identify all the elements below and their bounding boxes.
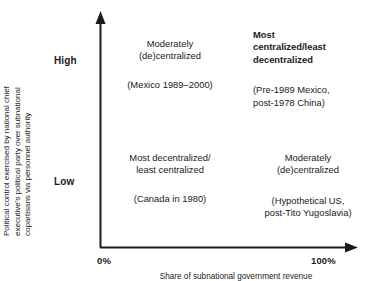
- quadrant-top-right-heading-line-3: decentralized: [253, 54, 371, 66]
- spacer: [244, 177, 372, 195]
- quadrant-top-right-heading-line-2: centralized/least: [253, 41, 371, 53]
- y-axis-tick-high: High: [54, 55, 77, 66]
- quadrant-top-right-heading-line-1: Most: [253, 29, 371, 41]
- quadrant-bottom-right: Moderately (de)centralized (Hypothetical…: [244, 152, 372, 220]
- x-axis-tick-max: 100%: [311, 255, 336, 266]
- quadrant-bottom-right-example-line-1: (Hypothetical US,: [244, 195, 372, 207]
- quadrant-top-left: Moderately (de)centralized (Mexico 1989–…: [108, 38, 232, 91]
- y-axis-tick-low: Low: [54, 176, 74, 187]
- quadrant-bottom-left-example-line-1: (Canada in 1980): [104, 193, 236, 205]
- quadrant-chart-figure: Political control exercised by national …: [0, 0, 372, 281]
- quadrant-top-left-heading-line-2: (de)centralized: [108, 50, 232, 62]
- quadrant-top-left-heading-line-1: Moderately: [108, 38, 232, 50]
- quadrant-bottom-left-heading-line-2: least centralized: [104, 164, 236, 176]
- y-axis-label-line-1: Political control exercised by national …: [2, 86, 12, 236]
- spacer: [253, 66, 371, 84]
- quadrant-top-right: Most centralized/least decentralized (Pr…: [253, 29, 371, 109]
- spacer: [108, 63, 232, 79]
- quadrant-bottom-right-heading-line-1: Moderately: [244, 152, 372, 164]
- x-axis-arrowhead: [345, 243, 358, 253]
- y-axis-label-line-3: copartisans via personnel authority: [23, 113, 33, 236]
- quadrant-top-left-example-line-1: (Mexico 1989–2000): [108, 79, 232, 91]
- x-axis-tick-min: 0%: [97, 255, 111, 266]
- spacer: [104, 177, 236, 193]
- x-axis-label: Share of subnational government revenue: [100, 272, 372, 281]
- y-axis-label-line-2: executive's political party over subnati…: [13, 87, 23, 236]
- quadrant-bottom-left: Most decentralized/ least centralized (C…: [104, 152, 236, 205]
- quadrant-top-right-example-line-2: post-1978 China): [253, 97, 371, 109]
- quadrant-bottom-right-example-line-2: post-Tito Yugoslavia): [244, 207, 372, 219]
- quadrant-bottom-left-heading-line-1: Most decentralized/: [104, 152, 236, 164]
- y-axis-arrowhead: [96, 11, 106, 24]
- quadrant-top-right-example-line-1: (Pre-1989 Mexico,: [253, 84, 371, 96]
- y-axis-label: Political control exercised by national …: [0, 8, 36, 236]
- quadrant-bottom-right-heading-line-2: (de)centralized: [244, 164, 372, 176]
